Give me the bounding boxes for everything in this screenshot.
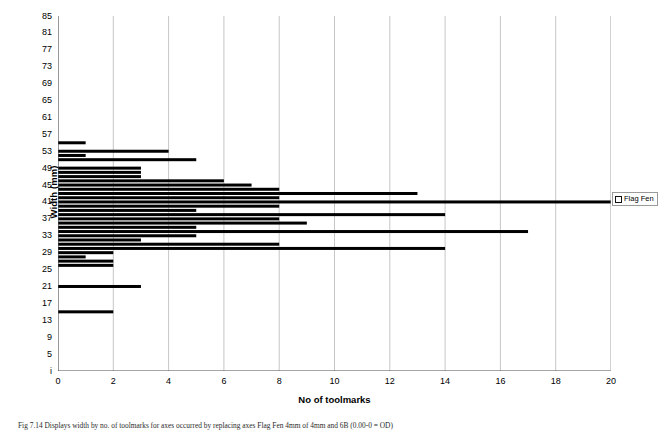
- y-axis-tick-label: 69: [30, 79, 52, 88]
- y-axis-tick-label: 45: [30, 181, 52, 190]
- x-axis-tick-label: 16: [485, 376, 515, 386]
- y-axis-tick-label: 5: [30, 350, 52, 359]
- figure-caption: Fig 7.14 Displays width by no. of toolma…: [18, 421, 658, 430]
- y-axis-tick-label: 65: [30, 96, 52, 105]
- x-axis-tick-label: 20: [596, 376, 626, 386]
- x-axis-tick-label: 18: [541, 376, 571, 386]
- y-axis-tick-label: 21: [30, 282, 52, 291]
- legend-entry-label: Flag Fen: [624, 195, 654, 203]
- x-axis-tick-label: 14: [430, 376, 460, 386]
- y-axis-tick-label: 85: [30, 12, 52, 21]
- x-axis-tick-label: 10: [320, 376, 350, 386]
- y-axis-tick-label: i: [30, 367, 52, 376]
- y-axis-tick-label: 13: [30, 316, 52, 325]
- x-axis-tick-label: 2: [98, 376, 128, 386]
- bar-chart-svg: [58, 16, 611, 371]
- y-axis-tick-label: 25: [30, 265, 52, 274]
- y-axis-tick-label: 9: [30, 333, 52, 342]
- y-axis-tick-label: 61: [30, 113, 52, 122]
- x-axis-tick-label: 6: [209, 376, 239, 386]
- y-axis-tick-label: 29: [30, 248, 52, 257]
- x-axis-tick-labels: 02468101214161820: [58, 376, 611, 390]
- y-axis-tick-label: 53: [30, 147, 52, 156]
- y-axis-tick-label: 17: [30, 299, 52, 308]
- chart-legend: Flag Fen: [612, 192, 658, 206]
- x-axis-tick-label: 0: [43, 376, 73, 386]
- chart-plot-area: [58, 16, 611, 371]
- figure: Width (mm) i5913172125293337414549535761…: [0, 0, 671, 433]
- y-axis-tick-label: 57: [30, 130, 52, 139]
- x-axis-title: No of toolmarks: [58, 394, 611, 405]
- y-axis-tick-label: 77: [30, 45, 52, 54]
- square-swatch-icon: [615, 196, 622, 203]
- y-axis-tick-label: 73: [30, 62, 52, 71]
- x-axis-tick-label: 8: [264, 376, 294, 386]
- y-axis-tick-label: 41: [30, 197, 52, 206]
- y-axis-tick-label: 33: [30, 231, 52, 240]
- y-axis-tick-label: 37: [30, 214, 52, 223]
- y-axis-tick-label: 81: [30, 28, 52, 37]
- x-axis-tick-label: 12: [375, 376, 405, 386]
- y-axis-tick-label: 49: [30, 164, 52, 173]
- y-axis-tick-labels: i591317212529333741454953576165697377818…: [26, 16, 52, 371]
- x-axis-tick-label: 4: [154, 376, 184, 386]
